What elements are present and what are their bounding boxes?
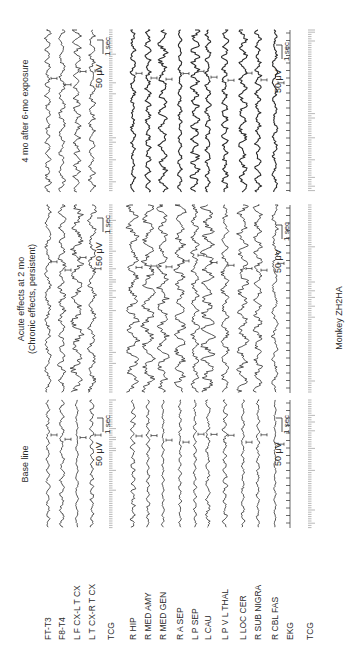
eeg-trace	[174, 205, 187, 392]
channel-label: L F CX-L T CX	[72, 585, 82, 640]
eeg-trace	[44, 30, 51, 192]
channel-label: FT-T3	[43, 617, 53, 640]
calibration-mark	[228, 264, 234, 267]
calibration-mark	[211, 76, 217, 79]
panel-title: 4 mo after 6-mo exposure	[20, 59, 30, 162]
figure-caption: Monkey ZH2HA	[334, 286, 344, 350]
eeg-trace	[178, 400, 181, 527]
eeg-trace	[87, 205, 96, 392]
eeg-trace	[239, 30, 248, 192]
channel-label: L P SEP	[190, 608, 200, 640]
calibration-mark	[183, 441, 189, 444]
scale-bar-voltage: 50 μV	[94, 64, 104, 88]
calibration-mark	[95, 267, 101, 270]
calibration-mark	[136, 266, 142, 269]
eeg-trace	[221, 205, 230, 392]
calibration-mark	[95, 434, 101, 437]
channel-labels: FT-T3F8-T4L F CX-L T CXL T CX-R T CXTCGR…	[43, 583, 315, 640]
eeg-trace	[58, 205, 67, 392]
calibration-mark	[151, 265, 157, 268]
calibration-mark	[166, 439, 172, 442]
calibration-mark	[136, 434, 142, 437]
tcg-trace	[308, 205, 315, 392]
calibration-mark	[198, 254, 204, 257]
eeg-trace	[256, 400, 260, 527]
eeg-trace	[193, 400, 197, 527]
eeg-trace	[205, 400, 210, 527]
eeg-trace	[162, 400, 165, 527]
eeg-trace	[130, 400, 136, 527]
calibration-mark	[228, 79, 234, 82]
channel-label: R MED AMY	[143, 592, 153, 640]
calibration-mark	[261, 78, 267, 81]
eeg-figure: FT-T3F8-T4L F CX-L T CXL T CX-R T CXTCGR…	[0, 0, 355, 648]
scale-bar-voltage: 50 μV	[94, 242, 104, 266]
scale-bar-time: 1 sec	[103, 37, 112, 56]
eeg-trace	[146, 400, 150, 527]
calibration-mark	[151, 434, 157, 437]
calibration-mark	[80, 256, 86, 259]
scale-bar-voltage: 50 μV	[273, 442, 283, 466]
channel-label: EKG	[285, 622, 295, 640]
eeg-trace	[126, 205, 140, 392]
panel-subtitle: (Chronic effects, persistent)	[27, 244, 37, 354]
calibration-mark	[80, 436, 86, 439]
channel-label: TCG	[106, 622, 116, 640]
eeg-trace	[191, 205, 200, 392]
tcg-trace	[308, 400, 315, 528]
eeg-trace	[59, 400, 64, 527]
eeg-trace	[70, 205, 84, 392]
eeg-trace	[88, 30, 96, 192]
calibration-mark	[136, 72, 142, 75]
channel-label: L CAU	[203, 615, 213, 640]
panel-0: Base line50 μV1 sec50 μV1 sec	[20, 400, 315, 528]
eeg-trace	[241, 400, 245, 527]
calibration-mark	[261, 269, 267, 272]
panel-1: Acute effects at 2 mo(Chronic effects, p…	[16, 205, 315, 393]
eeg-trace	[272, 205, 279, 392]
tcg-trace	[308, 30, 315, 191]
calibration-mark	[246, 441, 252, 444]
scale-bar-time: 1 sec	[282, 222, 291, 241]
channel-label: R SUB NIGRA	[253, 584, 263, 640]
eeg-traces-canvas: FT-T3F8-T4L F CX-L T CXL T CX-R T CXTCGR…	[0, 0, 355, 648]
eeg-trace	[145, 30, 152, 192]
calibration-mark	[51, 77, 57, 80]
calibration-mark	[211, 433, 217, 436]
calibration-mark	[151, 77, 157, 80]
eeg-trace	[178, 30, 183, 192]
eeg-trace	[76, 400, 79, 527]
eeg-trace	[237, 205, 249, 392]
calibration-mark	[228, 434, 234, 437]
calibration-mark	[65, 83, 71, 86]
eeg-trace	[200, 205, 215, 392]
scale-bar-time: 1 sec	[282, 42, 291, 61]
scale-bar-time: 1 sec	[103, 415, 112, 434]
calibration-mark	[166, 78, 172, 81]
eeg-trace	[45, 205, 52, 392]
panel-title: Base line	[20, 445, 30, 482]
eeg-trace	[221, 30, 228, 192]
channel-label: L T CX-R T CX	[87, 583, 97, 640]
panel-2: 4 mo after 6-mo exposure50 μV1 sec50 μV1…	[20, 30, 315, 192]
calibration-mark	[80, 70, 86, 73]
panel-title: Acute effects at 2 mo	[16, 257, 26, 341]
eeg-trace	[157, 205, 170, 392]
calibration-mark	[166, 265, 172, 268]
calibration-mark	[261, 433, 267, 436]
eeg-trace	[46, 400, 50, 527]
eeg-trace	[253, 205, 262, 392]
scale-bar: 50 μV1 sec	[273, 222, 291, 273]
eeg-trace	[272, 30, 278, 192]
eeg-trace	[130, 30, 136, 192]
calibration-mark	[65, 438, 71, 441]
channel-label: L P V L THAL	[220, 589, 230, 640]
calibration-mark	[51, 433, 57, 436]
eeg-trace	[141, 205, 156, 392]
channel-label: R HIP	[128, 617, 138, 640]
scale-bar-time: 1 sec	[103, 215, 112, 234]
scale-bar-voltage: 50 μV	[273, 249, 283, 273]
eeg-trace	[205, 30, 211, 192]
scale-bar-voltage: 50 μV	[273, 69, 283, 93]
channel-label: F8-T4	[57, 617, 67, 640]
